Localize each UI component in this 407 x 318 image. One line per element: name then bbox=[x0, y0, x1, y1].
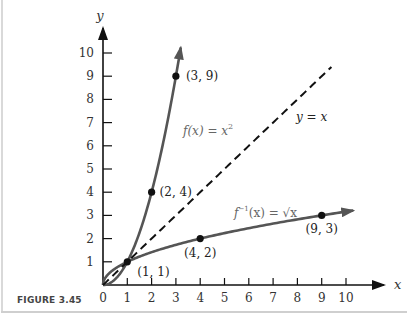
data-point bbox=[124, 258, 131, 265]
data-point-label: (1, 1) bbox=[137, 265, 169, 279]
figure-caption: FIGURE 3.45 bbox=[17, 295, 82, 305]
x-tick-label: 0 bbox=[99, 291, 107, 305]
series-label-finv-rest: (x) = √x bbox=[249, 206, 297, 220]
y-tick-label: 7 bbox=[86, 116, 94, 130]
y-tick-label: 8 bbox=[86, 92, 94, 106]
x-tick-label: 1 bbox=[123, 291, 131, 305]
data-point bbox=[197, 235, 204, 242]
series-label-identity: y = x bbox=[295, 110, 327, 124]
x-tick-label: 5 bbox=[221, 291, 229, 305]
x-tick-label: 3 bbox=[172, 291, 180, 305]
x-tick-label: 4 bbox=[196, 291, 204, 305]
data-point bbox=[318, 212, 325, 219]
y-tick-label: 4 bbox=[86, 185, 94, 199]
x-tick-label: 7 bbox=[269, 291, 277, 305]
x-tick-label: 2 bbox=[148, 291, 156, 305]
data-point-label: (4, 2) bbox=[184, 246, 216, 260]
x-tick-label: 6 bbox=[245, 291, 253, 305]
series-label-f: f(x) = x2 bbox=[182, 122, 233, 138]
series-curve-identity bbox=[103, 67, 331, 285]
y-tick-label: 2 bbox=[86, 232, 94, 246]
data-point bbox=[148, 189, 155, 196]
function-inverse-chart: 01234567891012345678910 xy(1, 1)(2, 4)(3… bbox=[0, 0, 407, 318]
series-curve-square bbox=[103, 47, 181, 285]
data-point-label: (3, 9) bbox=[186, 69, 218, 83]
data-point-label: (9, 3) bbox=[306, 222, 338, 236]
series-label-finv-superscript: −1 bbox=[238, 205, 248, 213]
y-axis-label: y bbox=[95, 8, 104, 23]
data-point bbox=[172, 73, 179, 80]
y-tick-label: 10 bbox=[79, 46, 94, 60]
x-tick-label: 8 bbox=[294, 291, 302, 305]
series-label-f-superscript: 2 bbox=[228, 122, 233, 131]
figure-frame: 01234567891012345678910 xy(1, 1)(2, 4)(3… bbox=[0, 0, 407, 318]
y-tick-label: 3 bbox=[86, 208, 94, 222]
curves bbox=[103, 47, 353, 285]
series-label-finv: f−1(x) = √x bbox=[233, 205, 297, 220]
y-tick-label: 1 bbox=[86, 255, 94, 269]
y-tick-label: 5 bbox=[86, 162, 94, 176]
x-axis-label: x bbox=[394, 277, 402, 292]
y-tick-label: 6 bbox=[86, 139, 94, 153]
x-tick-label: 9 bbox=[318, 291, 326, 305]
y-tick-label: 9 bbox=[86, 69, 94, 83]
data-point-label: (2, 4) bbox=[160, 185, 192, 199]
series-label-f-text: f(x) = x bbox=[182, 124, 228, 138]
x-tick-label: 10 bbox=[338, 291, 353, 305]
